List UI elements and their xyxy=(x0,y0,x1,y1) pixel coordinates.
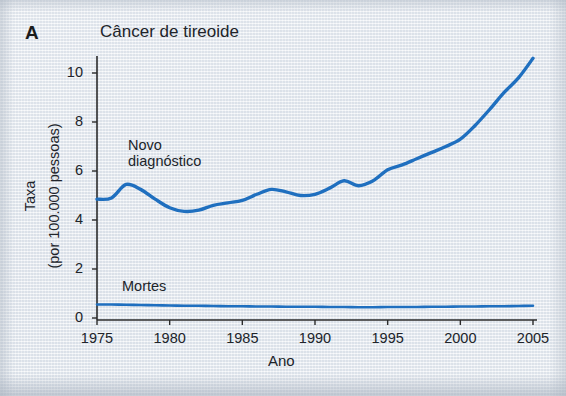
y-tick-label: 0 xyxy=(57,309,83,325)
x-tick-label: 1990 xyxy=(290,330,340,346)
x-tick-label: 1985 xyxy=(217,330,267,346)
line-deaths xyxy=(97,305,533,308)
y-tick-label: 8 xyxy=(57,113,83,129)
series-label-new-diagnosis: Novo diagnóstico xyxy=(128,137,201,169)
y-tick-label: 6 xyxy=(57,162,83,178)
series-label-new-diagnosis-line2: diagnóstico xyxy=(128,153,201,169)
line-new-diagnosis xyxy=(97,58,533,211)
y-tick-label: 4 xyxy=(57,211,83,227)
x-tick-label: 2005 xyxy=(508,330,558,346)
x-tick-label: 1995 xyxy=(363,330,413,346)
x-tick-label: 2000 xyxy=(435,330,485,346)
x-axis-label: Ano xyxy=(268,352,295,369)
figure-page: A Câncer de tireoide Taxa (por 100.000 p… xyxy=(0,0,566,396)
series-label-deaths: Mortes xyxy=(122,278,166,294)
series-label-new-diagnosis-line1: Novo xyxy=(128,137,162,153)
y-tick-label: 2 xyxy=(57,260,83,276)
x-tick-label: 1980 xyxy=(145,330,195,346)
x-tick-label: 1975 xyxy=(72,330,122,346)
y-tick-label: 10 xyxy=(57,64,83,80)
